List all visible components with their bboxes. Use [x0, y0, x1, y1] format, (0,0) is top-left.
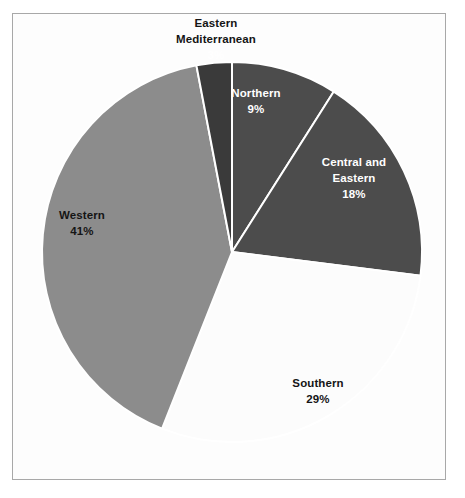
pie-chart-canvas [0, 0, 465, 498]
pie-chart-figure: Eastern Mediterranean 3% Northern 9% Cen… [0, 0, 465, 498]
pie-slice-group [42, 62, 422, 442]
